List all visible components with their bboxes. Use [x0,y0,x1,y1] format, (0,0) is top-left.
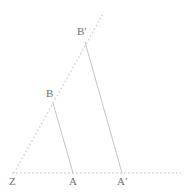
vertex-label-A: A [69,176,77,187]
segment-B-A [53,103,73,173]
ray-Z-through-B-Bprime [14,12,104,173]
geometry-figure: Z A A' B B' [0,0,192,194]
vertex-label-B: B [46,88,54,99]
vertex-label-Z: Z [9,176,16,187]
segment-Bprime-Aprime [85,42,122,173]
vertex-label-A-prime: A' [117,176,127,187]
figure-canvas [0,0,192,194]
vertex-label-B-prime: B' [77,26,87,37]
